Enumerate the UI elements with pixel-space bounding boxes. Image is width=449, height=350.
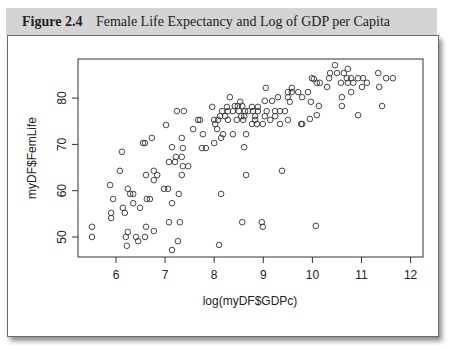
- data-point: [185, 163, 191, 169]
- data-point: [174, 108, 180, 114]
- data-point: [277, 121, 283, 127]
- data-point: [130, 200, 136, 206]
- data-point: [267, 117, 273, 123]
- x-tick-label: 12: [404, 268, 418, 282]
- data-point: [390, 75, 396, 81]
- data-point: [339, 94, 345, 100]
- data-point: [326, 75, 332, 81]
- data-point: [275, 94, 281, 100]
- data-point: [287, 99, 293, 105]
- x-tick-label: 10: [306, 268, 320, 282]
- data-point: [230, 131, 236, 137]
- data-point: [375, 70, 381, 76]
- x-axis-label: log(myDF$GDPc): [203, 294, 298, 308]
- data-point: [260, 121, 266, 127]
- y-tick-label: 60: [55, 184, 69, 198]
- data-point: [364, 80, 370, 86]
- data-point: [137, 205, 143, 211]
- x-tick-label: 7: [162, 268, 169, 282]
- data-point: [316, 103, 322, 109]
- data-point: [166, 219, 172, 225]
- data-point: [89, 234, 95, 240]
- data-point: [175, 238, 181, 244]
- data-point: [169, 200, 175, 206]
- data-point: [225, 117, 231, 123]
- data-point: [216, 242, 222, 248]
- y-tick-label: 70: [55, 137, 69, 151]
- data-point: [151, 177, 157, 183]
- data-point: [313, 223, 319, 229]
- data-point: [314, 112, 320, 118]
- data-point: [122, 210, 128, 216]
- data-point: [110, 196, 116, 202]
- data-point: [327, 70, 333, 76]
- data-point: [172, 159, 178, 165]
- data-point: [173, 154, 179, 160]
- data-point: [227, 94, 233, 100]
- data-point: [308, 99, 314, 105]
- data-point: [179, 154, 185, 160]
- data-point: [211, 140, 217, 146]
- data-point: [295, 89, 301, 95]
- data-point: [179, 172, 185, 178]
- data-point: [151, 228, 157, 234]
- data-point: [169, 247, 175, 253]
- x-tick-label: 9: [260, 268, 267, 282]
- data-point: [119, 149, 125, 155]
- data-point: [350, 80, 356, 86]
- data-point: [203, 145, 209, 151]
- data-point: [154, 172, 160, 178]
- data-point: [125, 229, 131, 235]
- data-point: [214, 126, 220, 132]
- scatter-plot: 6789101112 50607080 log(myDF$GDPc) myDF$…: [0, 0, 449, 350]
- data-point: [269, 98, 275, 104]
- data-point: [180, 163, 186, 169]
- data-point: [239, 219, 245, 225]
- data-point: [285, 117, 291, 123]
- data-point: [355, 112, 361, 118]
- data-point: [345, 66, 351, 72]
- data-point: [209, 104, 215, 110]
- data-point: [107, 182, 113, 188]
- data-point: [89, 224, 95, 230]
- data-point: [383, 75, 389, 81]
- y-tick-label: 50: [55, 230, 69, 244]
- data-point: [264, 108, 270, 114]
- data-point: [324, 84, 330, 90]
- data-point: [177, 219, 183, 225]
- data-point: [124, 243, 130, 249]
- data-point: [307, 116, 313, 122]
- data-point: [218, 191, 224, 197]
- data-point: [241, 144, 247, 150]
- data-point: [143, 172, 149, 178]
- x-tick-label: 8: [211, 268, 218, 282]
- data-point: [379, 103, 385, 109]
- data-point: [376, 84, 382, 90]
- data-point: [359, 84, 365, 90]
- data-point: [339, 103, 345, 109]
- data-point: [348, 89, 354, 95]
- data-point: [142, 234, 148, 240]
- data-point: [163, 122, 169, 128]
- data-point: [299, 94, 305, 100]
- data-point: [305, 89, 311, 95]
- data-point: [149, 135, 155, 141]
- data-point: [289, 89, 295, 95]
- data-point: [263, 85, 269, 91]
- data-point: [334, 70, 340, 76]
- data-point: [243, 131, 249, 137]
- data-point: [165, 186, 171, 192]
- plot-frame: [78, 59, 423, 257]
- data-point: [179, 135, 185, 141]
- data-point: [311, 76, 317, 82]
- data-point: [219, 108, 225, 114]
- y-axis-label: myDF$FemLife: [25, 117, 39, 199]
- data-point: [176, 191, 182, 197]
- data-point: [117, 168, 123, 174]
- data-points: [89, 62, 396, 252]
- data-point: [262, 98, 268, 104]
- y-axis: 50607080: [55, 91, 78, 244]
- y-tick-label: 80: [55, 91, 69, 105]
- data-point: [181, 108, 187, 114]
- data-point: [180, 145, 186, 151]
